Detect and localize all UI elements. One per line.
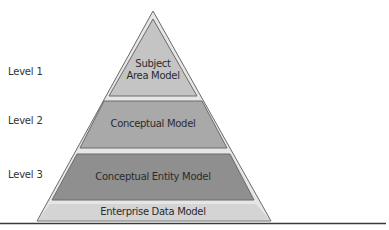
subject-area-model-label: Subject Area Model <box>113 58 193 82</box>
enterprise-data-model-label: Enterprise Data Model <box>60 206 246 218</box>
conceptual-entity-model-label: Conceptual Entity Model <box>60 171 246 183</box>
level-1-label: Level 1 <box>8 66 43 77</box>
level-3-label: Level 3 <box>8 169 43 180</box>
level-2-label: Level 2 <box>8 115 43 126</box>
conceptual-model-label: Conceptual Model <box>90 118 216 130</box>
pyramid-diagram <box>0 0 389 230</box>
